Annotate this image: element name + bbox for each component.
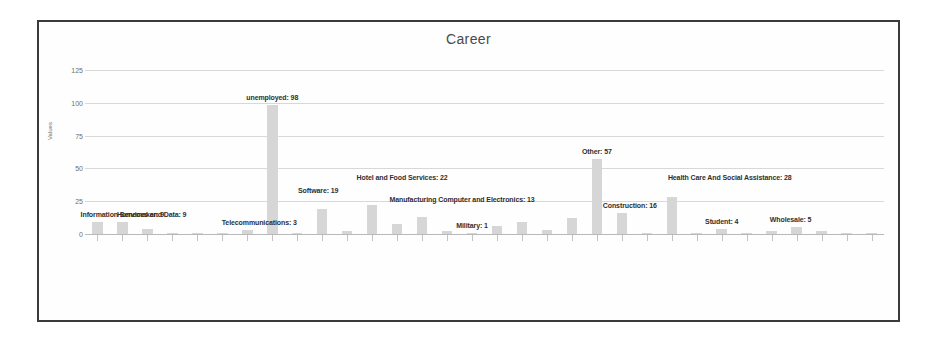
y-tick-label: 75 [47, 132, 83, 139]
bar-annotation: Wholesale: 5 [770, 216, 812, 223]
y-tick-label: 25 [47, 198, 83, 205]
y-tick-label: 100 [47, 99, 83, 106]
bar-annotation: Hotel and Food Services: 22 [357, 174, 448, 181]
chart-plot-area: Career Values 0255075100125 Information … [39, 22, 898, 320]
y-axis-ticks: 0255075100125 [43, 22, 83, 320]
bar-annotation: Student: 4 [705, 218, 738, 225]
bar-annotation: Manufacturing Computer and Electronics: … [389, 196, 534, 203]
bar-annotation: Construction: 16 [603, 202, 657, 209]
bar-annotation: unemployed: 98 [246, 94, 298, 101]
bar-annotation: Software: 19 [298, 187, 338, 194]
y-tick-label: 125 [47, 67, 83, 74]
bar-annotation: Homemaker: 9 [117, 211, 164, 218]
bar-annotation: Telecommunications: 3 [222, 219, 297, 226]
bar-annotation: Other: 57 [582, 148, 612, 155]
y-tick-label: 0 [47, 231, 83, 238]
bar-annotation: Military: 1 [456, 222, 488, 229]
chart-bar-annotations: Information Services and Data: 9Homemake… [85, 22, 884, 320]
chart-frame: Career Values 0255075100125 Information … [37, 20, 900, 322]
y-tick-label: 50 [47, 165, 83, 172]
bar-annotation: Health Care And Social Assistance: 28 [668, 174, 792, 181]
